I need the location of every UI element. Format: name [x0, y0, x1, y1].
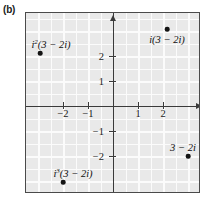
y-tick-pos2	[109, 56, 116, 57]
y-tick-label-neg2: −2	[86, 151, 104, 162]
point-label-base-value: 3 − 2i	[170, 142, 196, 153]
complex-plane-figure: (b)	[0, 0, 210, 203]
x-axis-arrow-icon	[196, 103, 200, 109]
plot-area: −2 −1 1 2 2 1 −1 −2 i(3 − 2i) i2(3 − 2i)…	[25, 12, 200, 193]
x-tick-label-neg2: −2	[57, 108, 68, 119]
y-tick-neg2	[109, 156, 116, 157]
data-point-i-times	[165, 27, 170, 32]
gridline-vertical	[101, 13, 103, 192]
x-tick-label-pos2: 2	[160, 108, 165, 119]
data-point-i-squared	[38, 51, 43, 56]
y-tick-label-pos2: 2	[90, 51, 104, 62]
gridline-vertical	[76, 13, 78, 192]
point-label-rest: (3 − 2i)	[152, 34, 185, 45]
y-axis	[113, 13, 114, 192]
y-axis-arrow-icon	[110, 15, 116, 21]
point-label-rest: (3 − 2i)	[60, 168, 93, 179]
y-tick-neg1	[109, 131, 116, 132]
panel-label: (b)	[3, 4, 15, 15]
x-tick-label-pos1: 1	[135, 108, 140, 119]
y-tick-label-pos1: 1	[90, 76, 104, 87]
point-label-i-times: i(3 − 2i)	[149, 34, 185, 45]
point-label-rest: (3 − 2i)	[38, 39, 71, 50]
y-tick-pos1	[109, 81, 116, 82]
point-label-i-cubed: i3(3 − 2i)	[53, 168, 92, 179]
gridline-vertical	[188, 13, 190, 192]
gridline-vertical	[126, 13, 128, 192]
data-point-i-cubed	[61, 180, 66, 185]
point-label-i-squared: i2(3 − 2i)	[31, 39, 70, 50]
x-tick-label-neg1: −1	[82, 108, 93, 119]
y-tick-label-neg1: −1	[86, 126, 104, 137]
data-point-base	[186, 154, 191, 159]
